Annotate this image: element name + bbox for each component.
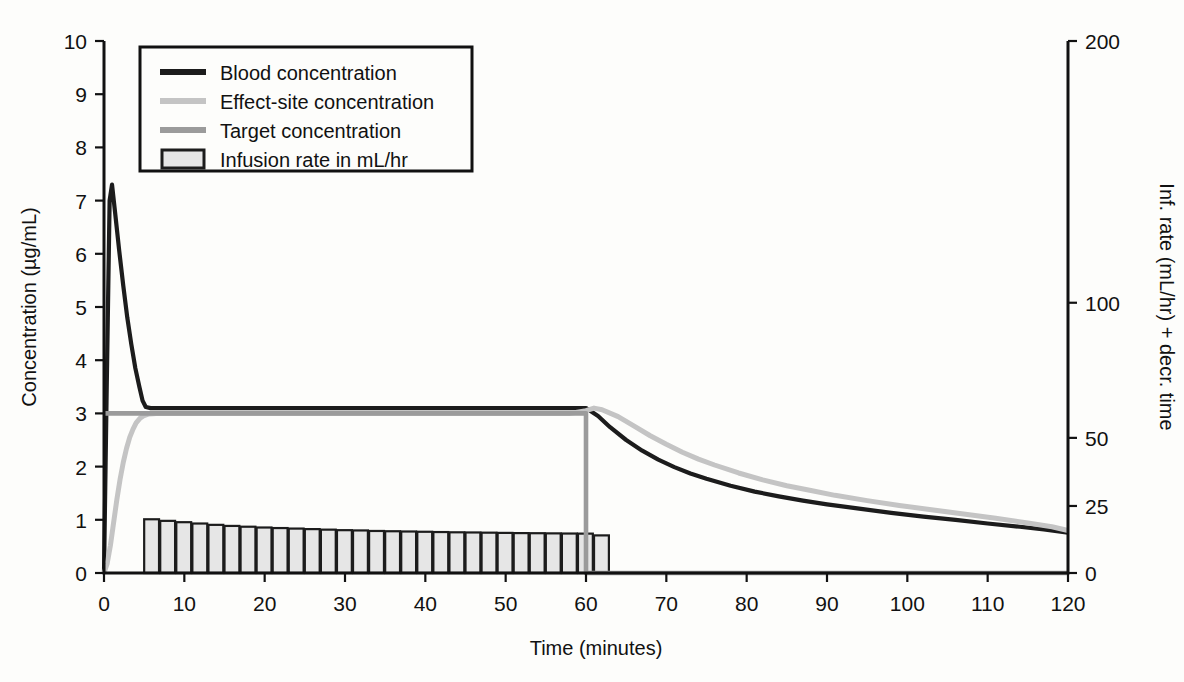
y-tick-label: 9 xyxy=(75,83,87,106)
infusion-rate-bar xyxy=(257,528,272,573)
x-tick-label: 90 xyxy=(815,592,838,615)
chart-canvas: 0102030405060708090100110120012345678910… xyxy=(0,0,1184,682)
infusion-rate-bar xyxy=(289,529,304,573)
infusion-rate-bar xyxy=(192,524,207,573)
infusion-rate-bar xyxy=(305,529,320,573)
infusion-rate-bar xyxy=(160,521,175,573)
y2-tick-label: 50 xyxy=(1085,427,1108,450)
legend-swatch-marker xyxy=(162,150,204,168)
infusion-rate-bar xyxy=(466,532,481,573)
x-tick-label: 10 xyxy=(173,592,196,615)
x-tick-label: 30 xyxy=(333,592,356,615)
y-tick-label: 8 xyxy=(75,136,87,159)
x-tick-label: 120 xyxy=(1050,592,1085,615)
y-tick-label: 2 xyxy=(75,456,87,479)
legend-label: Target concentration xyxy=(220,120,401,142)
infusion-rate-bar xyxy=(385,531,400,573)
x-tick-label: 60 xyxy=(574,592,597,615)
infusion-rate-bar xyxy=(353,530,368,573)
infusion-rate-bar xyxy=(449,532,464,573)
y2-tick-label: 100 xyxy=(1085,292,1120,315)
infusion-rate-bar xyxy=(273,528,288,573)
y-tick-label: 4 xyxy=(75,349,87,372)
infusion-rate-bar xyxy=(225,526,240,573)
infusion-rate-bar xyxy=(498,533,513,573)
pk-simulation-chart: 0102030405060708090100110120012345678910… xyxy=(0,0,1184,682)
infusion-rate-bar xyxy=(482,533,497,573)
infusion-rate-bar xyxy=(546,533,561,573)
infusion-rate-bar xyxy=(514,533,529,573)
y-tick-label: 1 xyxy=(75,509,87,532)
y-axis-title: Concentration (µg/mL) xyxy=(18,207,40,406)
y-tick-label: 6 xyxy=(75,243,87,266)
infusion-rate-bar xyxy=(433,532,448,573)
infusion-rate-bar xyxy=(530,533,545,573)
legend-label: Blood concentration xyxy=(220,62,397,84)
y-tick-label: 0 xyxy=(75,562,87,585)
infusion-rate-bar xyxy=(337,530,352,573)
x-tick-label: 40 xyxy=(414,592,437,615)
y2-axis-title: Inf. rate (mL/hr) + decr. time xyxy=(1156,183,1178,430)
infusion-rate-bar xyxy=(401,532,416,574)
infusion-rate-bar xyxy=(562,534,577,573)
x-tick-label: 20 xyxy=(253,592,276,615)
x-axis-title: Time (minutes) xyxy=(530,637,663,659)
infusion-rate-bar xyxy=(417,532,432,573)
x-tick-label: 100 xyxy=(890,592,925,615)
legend-label: Effect-site concentration xyxy=(220,91,434,113)
infusion-rate-bar xyxy=(369,531,384,573)
y2-tick-label: 200 xyxy=(1085,30,1120,53)
chart-legend[interactable]: Blood concentrationEffect-site concentra… xyxy=(140,47,472,171)
y2-tick-label: 0 xyxy=(1085,562,1097,585)
legend-label: Infusion rate in mL/hr xyxy=(220,149,408,171)
x-tick-label: 80 xyxy=(735,592,758,615)
y-tick-label: 5 xyxy=(75,296,87,319)
y2-tick-label: 25 xyxy=(1085,495,1108,518)
infusion-rate-bar xyxy=(594,535,609,573)
infusion-rate-bar xyxy=(321,530,336,573)
x-tick-label: 70 xyxy=(655,592,678,615)
infusion-rate-bar xyxy=(241,527,256,573)
x-tick-label: 0 xyxy=(98,592,110,615)
y-tick-label: 7 xyxy=(75,190,87,213)
x-tick-label: 110 xyxy=(971,592,1004,615)
infusion-rate-bar xyxy=(176,522,191,573)
infusion-rate-bar xyxy=(208,525,223,573)
y-tick-label: 10 xyxy=(64,30,87,53)
x-tick-label: 50 xyxy=(494,592,517,615)
infusion-rate-bar xyxy=(144,519,159,573)
y-tick-label: 3 xyxy=(75,402,87,425)
